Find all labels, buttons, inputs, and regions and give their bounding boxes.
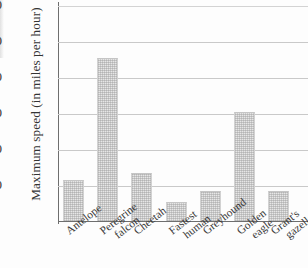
bar-slot bbox=[63, 6, 84, 221]
bar bbox=[97, 58, 118, 221]
bar-slot bbox=[268, 6, 289, 221]
plot-area: 50100150200250300 bbox=[58, 6, 308, 222]
bar-chart: Maximum speed (in miles per hour) 501001… bbox=[0, 0, 308, 268]
y-axis-tick-label: 150 bbox=[0, 105, 2, 121]
bar-slot bbox=[166, 6, 187, 221]
bar-slot bbox=[234, 6, 255, 221]
bar-slot bbox=[200, 6, 221, 221]
y-axis-title: Maximum speed (in miles per hour) bbox=[28, 0, 44, 210]
bar-slot bbox=[131, 6, 152, 221]
bar-series bbox=[59, 6, 308, 221]
y-axis-tick-label: 250 bbox=[0, 33, 2, 49]
bar-slot bbox=[97, 6, 118, 221]
y-axis-tick-label: 50 bbox=[0, 177, 2, 193]
y-axis-tick-label: 300 bbox=[0, 0, 2, 13]
x-axis-tick-labels: AntelopePeregrinefalconCheetahFastesthum… bbox=[0, 222, 308, 268]
y-axis-tick-label: 200 bbox=[0, 69, 2, 85]
y-axis-tick-label: 100 bbox=[0, 141, 2, 157]
